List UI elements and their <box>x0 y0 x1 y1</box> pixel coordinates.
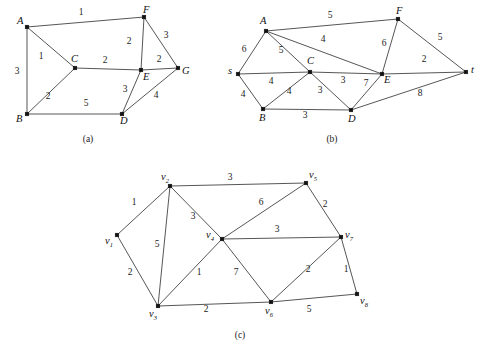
edge-F-t <box>398 19 466 72</box>
edge-weight-B-C: 2 <box>46 91 51 101</box>
vertex-G <box>176 66 180 70</box>
vertex-B <box>25 112 29 116</box>
panel-a: 13125223234ABCDEFG(a) <box>15 4 190 145</box>
edge-A-C <box>27 27 75 68</box>
vertex-subscript-v4: 4 <box>211 235 215 242</box>
edge-weight-B-D: 3 <box>303 110 308 120</box>
panel-b-caption: (b) <box>326 134 337 145</box>
edge-weight-v5-v7: 2 <box>323 199 328 209</box>
vertex-C <box>73 66 77 70</box>
edge-weight-A-F: 5 <box>328 10 333 20</box>
panel-c-edge-weights: 31532126372251 <box>128 172 349 314</box>
edge-E-G <box>141 68 178 70</box>
edge-A-F <box>266 19 398 31</box>
vertex-v1 <box>115 233 119 237</box>
vertex-label-A: A <box>16 15 24 26</box>
edge-v3-v6 <box>158 302 271 306</box>
panel-b-edges <box>238 19 466 110</box>
edge-v6-v8 <box>271 294 357 302</box>
edge-weight-v3-v6: 2 <box>204 304 209 314</box>
vertex-label-s: s <box>228 65 232 76</box>
panel-b: 565444433376528sABCDEFt(b) <box>228 5 475 145</box>
edge-weight-v1-v2: 1 <box>132 197 137 207</box>
vertex-F <box>396 17 400 21</box>
panel-b-edge-weights: 565444433376528 <box>241 10 443 120</box>
edge-weight-v7-v8: 1 <box>344 264 349 274</box>
edge-v2-v5 <box>170 183 306 186</box>
edge-weight-v3-v4: 1 <box>197 267 202 277</box>
edge-weight-v2-v5: 3 <box>228 172 233 182</box>
vertex-label-v3: v3 <box>149 308 158 321</box>
weighted-graphs-figure: 13125223234ABCDEFG(a)565444433376528sABC… <box>0 0 486 356</box>
edge-v3-v4 <box>158 239 222 306</box>
edge-weight-v4-v7: 3 <box>275 224 280 234</box>
edge-weight-D-G: 4 <box>154 90 159 100</box>
vertex-A <box>25 25 29 29</box>
vertex-label-D: D <box>347 113 356 124</box>
panel-c-caption: (c) <box>235 330 246 341</box>
edge-weight-E-D: 3 <box>123 84 128 94</box>
edge-weight-B-C: 4 <box>287 86 292 96</box>
vertex-subscript-v8: 8 <box>365 301 369 308</box>
vertex-label-v8: v8 <box>360 295 369 308</box>
edge-weight-A-B: 3 <box>15 66 20 76</box>
vertex-label-v6: v6 <box>265 305 274 318</box>
vertex-label-E: E <box>383 74 391 85</box>
edge-weight-A-C: 1 <box>39 51 44 61</box>
edge-C-E <box>310 72 382 74</box>
figure-container: 13125223234ABCDEFG(a)565444433376528sABC… <box>0 0 486 356</box>
panel-a-nodes: ABCDEFG <box>16 4 190 126</box>
edge-v4-v7 <box>222 237 341 239</box>
vertex-v4 <box>220 237 224 241</box>
vertex-t <box>464 70 468 74</box>
vertex-D <box>349 108 353 112</box>
vertex-v5 <box>304 181 308 185</box>
edge-weight-v6-v8: 5 <box>307 304 312 314</box>
edge-weight-s-B: 4 <box>241 89 246 99</box>
edge-weight-C-E: 2 <box>103 55 108 65</box>
edge-weight-v6-v7: 2 <box>306 264 311 274</box>
vertex-label-G: G <box>182 65 190 76</box>
edge-weight-F-E: 2 <box>127 36 132 46</box>
edge-weight-v2-v4: 3 <box>191 211 196 221</box>
vertex-label-B: B <box>259 112 266 123</box>
edge-D-G <box>122 68 178 114</box>
vertex-subscript-v2: 2 <box>166 177 170 184</box>
panel-c-nodes: v1v2v3v4v5v6v7v8 <box>105 169 369 321</box>
vertex-v6 <box>269 300 273 304</box>
vertex-F <box>142 15 146 19</box>
edge-weight-E-t: 2 <box>422 54 427 64</box>
vertex-label-v5: v5 <box>309 169 318 182</box>
edge-E-t <box>382 72 466 74</box>
edge-A-C <box>266 31 310 72</box>
vertex-s <box>236 72 240 76</box>
panel-c: 31532126372251v1v2v3v4v5v6v7v8(c) <box>105 169 369 341</box>
vertex-label-v1: v1 <box>105 235 113 248</box>
edge-v1-v3 <box>117 235 158 306</box>
edge-weight-v2-v3: 5 <box>155 239 160 249</box>
edge-weight-F-E: 6 <box>382 38 387 48</box>
edge-weight-s-A: 6 <box>242 44 247 54</box>
panel-c-edges <box>117 183 357 306</box>
vertex-label-C: C <box>307 55 315 66</box>
edge-weight-D-E: 7 <box>364 78 369 88</box>
edge-weight-E-G: 2 <box>157 54 162 64</box>
vertex-label-B: B <box>16 113 23 124</box>
edge-weight-B-D: 5 <box>84 98 89 108</box>
edge-weight-v4-v5: 6 <box>259 197 264 207</box>
vertex-v8 <box>355 292 359 296</box>
edge-weight-F-t: 5 <box>438 32 443 42</box>
vertex-label-A: A <box>259 15 267 26</box>
edge-weight-F-G: 3 <box>164 30 169 40</box>
edge-v4-v5 <box>222 183 306 239</box>
edge-v2-v4 <box>170 186 222 239</box>
edge-A-F <box>27 17 144 27</box>
vertex-subscript-v7: 7 <box>350 235 354 242</box>
vertex-subscript-v6: 6 <box>270 311 274 318</box>
vertex-A <box>264 29 268 33</box>
edge-weight-C-D: 3 <box>318 85 323 95</box>
edge-weight-A-C: 5 <box>279 45 284 55</box>
vertex-label-F: F <box>395 5 403 16</box>
edge-B-C <box>27 68 75 114</box>
edge-weight-A-F: 1 <box>79 7 84 17</box>
